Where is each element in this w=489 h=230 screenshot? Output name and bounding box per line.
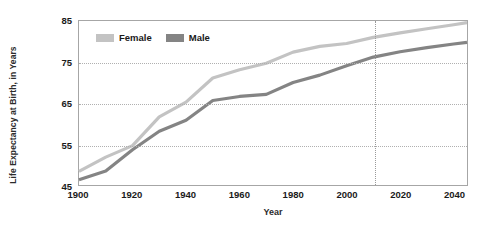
gridline-y-55 [79, 146, 467, 147]
legend-item-male: Male [166, 32, 210, 43]
legend-swatch-icon [96, 34, 114, 42]
x-tick-2040: 2040 [444, 189, 465, 200]
y-tick-75: 75 [40, 56, 72, 67]
plot-area [78, 20, 468, 186]
x-tick-1940: 1940 [175, 189, 196, 200]
series-lines [79, 21, 467, 185]
x-axis-tick-labels: 19001920194019601980200020202040 [0, 189, 489, 205]
series-line-female [79, 23, 467, 172]
life-expectancy-line-chart: Life Expectancy at Birth, in Years 45556… [0, 0, 489, 230]
x-tick-1980: 1980 [283, 189, 304, 200]
y-tick-65: 65 [40, 98, 72, 109]
projection-divider [375, 21, 376, 185]
x-tick-1900: 1900 [67, 189, 88, 200]
legend-label: Male [189, 32, 210, 43]
gridline-y-75 [79, 63, 467, 64]
x-tick-2000: 2000 [336, 189, 357, 200]
legend-swatch-icon [166, 34, 184, 42]
y-tick-85: 85 [40, 15, 72, 26]
x-tick-1920: 1920 [121, 189, 142, 200]
x-axis-title: Year [78, 207, 468, 217]
x-tick-2020: 2020 [390, 189, 411, 200]
legend-item-female: Female [96, 32, 152, 43]
y-tick-55: 55 [40, 139, 72, 150]
legend-label: Female [119, 32, 152, 43]
chart-legend: FemaleMale [96, 32, 210, 43]
gridline-y-65 [79, 104, 467, 105]
x-tick-1960: 1960 [229, 189, 250, 200]
